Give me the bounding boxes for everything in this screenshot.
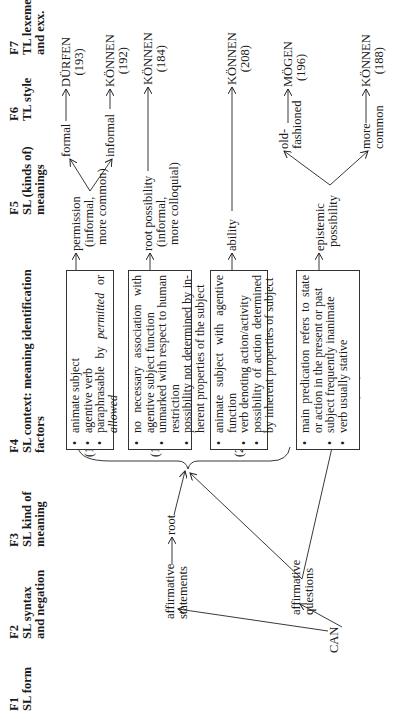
- context-box-permission: animate subject agentive verb paraphrasa…: [66, 270, 114, 450]
- lexeme-konnen-208: KÖNNEN (208): [226, 32, 252, 85]
- lexeme-mogen-196: MÖGEN (196): [282, 41, 308, 87]
- style-informal: informal: [104, 114, 117, 157]
- context-box-epistemic: main predication refers to state or acti…: [296, 270, 360, 450]
- context-box-ability: animate subject with agentive function v…: [210, 270, 268, 450]
- lexeme-konnen-184: KÖNNEN (184): [142, 32, 168, 85]
- meaning-root-possibility: root possibility (informal, more colloqu…: [142, 162, 181, 251]
- sl-form-can: CAN: [328, 627, 341, 653]
- diagram-can-to-german-modals: F1 SL form F2 SL syntax and negation F3 …: [0, 0, 400, 719]
- affirmative-statements-label: affirmative statements: [164, 564, 190, 619]
- lexeme-durfen-193: DÜRFEN (193): [60, 37, 86, 87]
- lexeme-konnen-192: KÖNNEN (192): [104, 34, 130, 87]
- style-more-common: more common: [360, 105, 386, 149]
- context-box-root-possibility: no necessary association with agentive s…: [128, 270, 192, 450]
- paraphrasable-item: paraphrasable by permitted or allowed: [94, 275, 119, 445]
- lexeme-konnen-188: KÖNNEN (188): [360, 34, 386, 87]
- meaning-permission: permission (informal, more common): [70, 168, 109, 251]
- root-meaning-label: root: [165, 515, 178, 535]
- meaning-ability: ability: [226, 219, 239, 251]
- style-formal: formal: [60, 124, 73, 157]
- affirmative-questions-label: affirmative questions: [290, 560, 316, 615]
- style-old-fashioned: old- fashioned: [278, 100, 304, 149]
- meaning-epistemic-possibility: epistemic possibility: [314, 195, 340, 251]
